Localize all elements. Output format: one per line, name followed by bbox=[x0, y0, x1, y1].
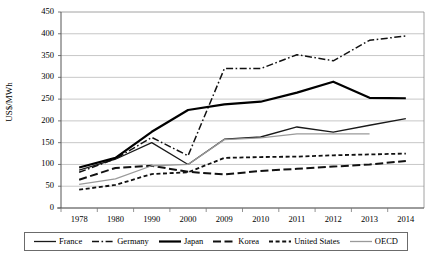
legend-label: Germany bbox=[117, 237, 149, 246]
y-axis-tick-label: 100 bbox=[26, 159, 54, 168]
x-axis-tick-label: 2000 bbox=[171, 214, 205, 224]
legend-line-swatch bbox=[269, 237, 291, 246]
x-axis-tick-label: 1980 bbox=[98, 214, 132, 224]
legend-label: United States bbox=[294, 237, 340, 246]
legend-item-oecd[interactable]: OECD bbox=[350, 237, 398, 246]
x-axis-tick-label: 2010 bbox=[244, 214, 278, 224]
legend-line-swatch bbox=[34, 237, 56, 246]
legend-item-germany[interactable]: Germany bbox=[92, 237, 149, 246]
x-axis-tick-label: 2011 bbox=[280, 214, 314, 224]
legend-label: Japan bbox=[184, 237, 203, 246]
legend-item-japan[interactable]: Japan bbox=[159, 237, 203, 246]
y-axis-tick-label: 300 bbox=[26, 72, 54, 81]
legend-label: France bbox=[59, 237, 82, 246]
y-axis-tick-label: 200 bbox=[26, 116, 54, 125]
y-axis-tick-label: 350 bbox=[26, 51, 54, 60]
x-axis-tick-label: 2014 bbox=[389, 214, 423, 224]
y-axis-tick-label: 400 bbox=[26, 29, 54, 38]
plot-area bbox=[0, 0, 432, 266]
x-axis-tick-label: 2012 bbox=[316, 214, 350, 224]
x-axis-tick-label: 1978 bbox=[62, 214, 96, 224]
series-line-oecd bbox=[79, 134, 369, 185]
legend-item-france[interactable]: France bbox=[34, 237, 82, 246]
y-axis-tick-label: 0 bbox=[26, 203, 54, 212]
series-line-united-states bbox=[79, 154, 406, 190]
x-axis-tick-label: 2009 bbox=[207, 214, 241, 224]
chart-legend: FranceGermanyJapanKoreaUnited StatesOECD bbox=[24, 232, 408, 251]
legend-item-united-states[interactable]: United States bbox=[269, 237, 340, 246]
y-axis-tick-label: 50 bbox=[26, 181, 54, 190]
x-axis-tick-label: 2013 bbox=[353, 214, 387, 224]
legend-item-korea[interactable]: Korea bbox=[213, 237, 259, 246]
line-chart: US$/MWh 050100150200250300350400450 1978… bbox=[0, 0, 432, 266]
series-line-korea bbox=[79, 161, 406, 180]
legend-label: Korea bbox=[238, 237, 259, 246]
legend-line-swatch bbox=[92, 237, 114, 246]
x-axis-tick-label: 1990 bbox=[135, 214, 169, 224]
y-axis-tick-label: 450 bbox=[26, 7, 54, 16]
series-line-japan bbox=[79, 82, 406, 168]
legend-line-swatch bbox=[350, 237, 372, 246]
legend-line-swatch bbox=[159, 237, 181, 246]
y-axis-tick-label: 150 bbox=[26, 138, 54, 147]
y-axis-tick-label: 250 bbox=[26, 94, 54, 103]
legend-line-swatch bbox=[213, 237, 235, 246]
series-line-france bbox=[79, 119, 406, 170]
legend-label: OECD bbox=[375, 237, 398, 246]
